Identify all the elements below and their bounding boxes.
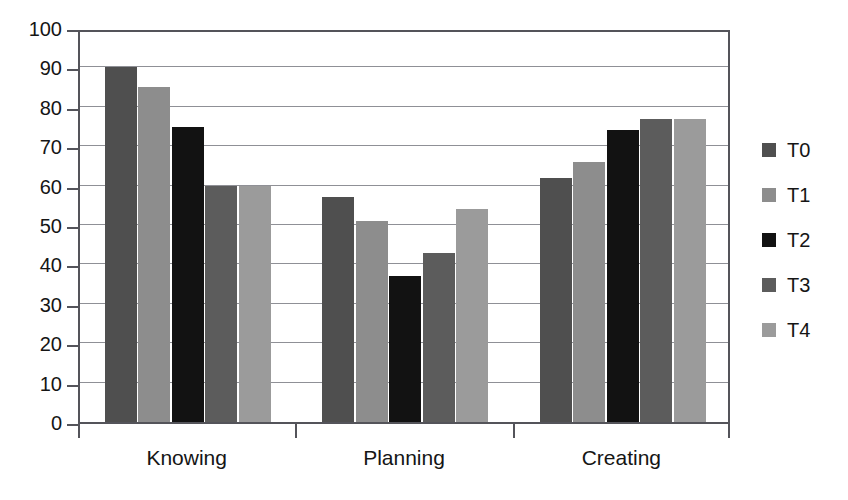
bar bbox=[322, 197, 354, 422]
y-axis-tick: 60 bbox=[0, 188, 78, 189]
legend-label: T4 bbox=[787, 319, 810, 341]
bar bbox=[573, 162, 605, 422]
x-axis-tick-mark bbox=[513, 424, 515, 438]
bar bbox=[389, 276, 421, 422]
y-axis-tick-label: 10 bbox=[40, 373, 62, 395]
bar bbox=[105, 67, 137, 422]
bar bbox=[356, 221, 388, 422]
y-axis-tick-label: 0 bbox=[51, 412, 62, 434]
y-axis-tick-label: 80 bbox=[40, 97, 62, 119]
y-axis-tick-mark bbox=[67, 30, 78, 32]
y-axis-tick: 20 bbox=[0, 345, 78, 346]
x-axis-category-label: Planning bbox=[295, 446, 512, 470]
y-axis-tick-label: 20 bbox=[40, 333, 62, 355]
legend-label: T2 bbox=[787, 229, 810, 251]
y-axis-tick: 90 bbox=[0, 69, 78, 70]
legend-item-t0[interactable]: T0 bbox=[762, 138, 810, 162]
y-axis-tick-mark bbox=[67, 306, 78, 308]
bar bbox=[138, 87, 170, 422]
bar bbox=[674, 119, 706, 422]
bar bbox=[423, 253, 455, 422]
x-axis: KnowingPlanningCreating bbox=[78, 424, 730, 484]
legend-item-t3[interactable]: T3 bbox=[762, 273, 810, 297]
x-axis-tick-mark bbox=[78, 424, 80, 438]
y-axis-tick-mark bbox=[67, 345, 78, 347]
legend-item-t2[interactable]: T2 bbox=[762, 228, 810, 252]
y-axis-tick-mark bbox=[67, 109, 78, 111]
y-axis-tick-mark bbox=[67, 424, 78, 426]
y-axis-tick-label: 100 bbox=[29, 18, 62, 40]
y-axis-tick-mark bbox=[67, 148, 78, 150]
bar-group bbox=[515, 32, 732, 422]
legend-swatch-icon bbox=[762, 323, 776, 337]
y-axis-tick-label: 50 bbox=[40, 215, 62, 237]
y-axis-tick-label: 40 bbox=[40, 254, 62, 276]
x-axis-category-label: Knowing bbox=[78, 446, 295, 470]
legend-label: T1 bbox=[787, 184, 810, 206]
legend-label: T3 bbox=[787, 274, 810, 296]
y-axis-tick-mark bbox=[67, 266, 78, 268]
bar bbox=[172, 127, 204, 423]
y-axis-tick: 10 bbox=[0, 385, 78, 386]
y-axis-tick-label: 30 bbox=[40, 294, 62, 316]
legend-swatch-icon bbox=[762, 188, 776, 202]
y-axis-tick: 70 bbox=[0, 148, 78, 149]
bar bbox=[640, 119, 672, 422]
legend-item-t1[interactable]: T1 bbox=[762, 183, 810, 207]
y-axis-tick-label: 90 bbox=[40, 57, 62, 79]
legend-swatch-icon bbox=[762, 143, 776, 157]
y-axis-tick: 50 bbox=[0, 227, 78, 228]
y-axis-tick-label: 70 bbox=[40, 136, 62, 158]
y-axis-tick-label: 60 bbox=[40, 176, 62, 198]
y-axis-tick: 100 bbox=[0, 30, 78, 31]
x-axis-tick-mark bbox=[728, 424, 730, 438]
bar bbox=[205, 186, 237, 422]
y-axis-tick: 40 bbox=[0, 266, 78, 267]
plot-area bbox=[78, 30, 730, 424]
legend-item-t4[interactable]: T4 bbox=[762, 318, 810, 342]
y-axis-tick-mark bbox=[67, 227, 78, 229]
bar bbox=[607, 130, 639, 422]
y-axis: 0102030405060708090100 bbox=[0, 0, 78, 454]
bar bbox=[540, 178, 572, 422]
bars-layer bbox=[80, 32, 728, 422]
y-axis-tick-mark bbox=[67, 188, 78, 190]
y-axis-tick-mark bbox=[67, 69, 78, 71]
legend-swatch-icon bbox=[762, 278, 776, 292]
bar-chart: 0102030405060708090100 KnowingPlanningCr… bbox=[0, 0, 848, 500]
y-axis-tick: 80 bbox=[0, 109, 78, 110]
x-axis-category-label: Creating bbox=[513, 446, 730, 470]
y-axis-tick: 0 bbox=[0, 424, 78, 425]
x-axis-tick-mark bbox=[295, 424, 297, 438]
y-axis-tick: 30 bbox=[0, 306, 78, 307]
chart-legend: T0T1T2T3T4 bbox=[762, 138, 848, 368]
bar bbox=[456, 209, 488, 422]
y-axis-tick-mark bbox=[67, 385, 78, 387]
bar-group bbox=[297, 32, 514, 422]
bar-group bbox=[80, 32, 297, 422]
legend-label: T0 bbox=[787, 139, 810, 161]
legend-swatch-icon bbox=[762, 233, 776, 247]
bar bbox=[239, 186, 271, 422]
